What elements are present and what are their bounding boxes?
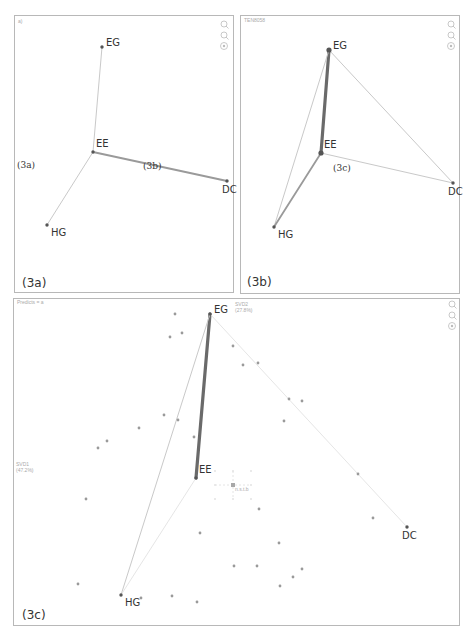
edge-ee-eg bbox=[93, 47, 102, 152]
scatter-point bbox=[177, 419, 180, 422]
grid-dot bbox=[214, 498, 216, 500]
scatter-point bbox=[258, 508, 261, 511]
zoom-out-icon[interactable] bbox=[448, 32, 456, 40]
grid-dot bbox=[250, 498, 252, 500]
node-label-dc: DC bbox=[222, 184, 237, 195]
zoom-in-icon[interactable] bbox=[448, 21, 456, 29]
panel-corner-text: TEN8058 bbox=[244, 17, 265, 23]
reset-view-icon[interactable] bbox=[448, 43, 455, 50]
scatter-point bbox=[169, 336, 172, 339]
scatter-point bbox=[292, 576, 295, 579]
edge-ee-hg bbox=[274, 153, 321, 227]
scatter-point bbox=[278, 542, 281, 545]
annotation: (3c) bbox=[333, 163, 351, 173]
scatter-point bbox=[233, 565, 236, 568]
scatter-point bbox=[283, 420, 286, 423]
node-dc[interactable] bbox=[451, 181, 454, 184]
node-label-ee: EE bbox=[96, 138, 109, 149]
node-label-eg: EG bbox=[214, 304, 228, 315]
panel-corner-text: Predicts = a bbox=[17, 299, 44, 305]
grid-dot bbox=[250, 470, 252, 472]
scatter-point bbox=[85, 498, 88, 501]
grid-dot bbox=[214, 470, 216, 472]
zoom-in-icon[interactable] bbox=[449, 301, 457, 309]
scatter-point bbox=[199, 532, 202, 535]
scatter-point bbox=[97, 447, 100, 450]
scatter-point bbox=[232, 345, 235, 348]
scatter-point bbox=[301, 568, 304, 571]
node-ee[interactable] bbox=[91, 150, 94, 153]
node-label-eg: EG bbox=[106, 37, 120, 48]
node-eg[interactable] bbox=[100, 45, 103, 48]
zoom-out-icon[interactable] bbox=[449, 312, 457, 320]
scatter-point bbox=[301, 400, 304, 403]
scatter-point bbox=[242, 364, 245, 367]
scatter-point bbox=[174, 313, 177, 316]
node-hg[interactable] bbox=[45, 223, 48, 226]
y-axis-pct: (47.2%) bbox=[16, 467, 34, 473]
node-label-dc: DC bbox=[402, 530, 417, 541]
node-dc[interactable] bbox=[225, 179, 228, 182]
scatter-point bbox=[163, 414, 166, 417]
zoom-in-icon[interactable] bbox=[221, 21, 229, 29]
edge-eg-dc bbox=[210, 314, 407, 527]
scatter-point bbox=[372, 517, 375, 520]
node-ee[interactable] bbox=[318, 150, 323, 155]
scatter-point bbox=[256, 565, 259, 568]
annotation: (3a) bbox=[17, 160, 35, 170]
scatter-point bbox=[279, 585, 282, 588]
scatter-point bbox=[138, 427, 141, 430]
node-label-ee: EE bbox=[199, 464, 212, 475]
zoom-out-icon[interactable] bbox=[221, 32, 229, 40]
annotation: (3b) bbox=[143, 161, 162, 171]
node-label-dc: DC bbox=[448, 186, 463, 197]
panel-corner-text: a) bbox=[18, 18, 23, 24]
scatter-point bbox=[357, 473, 360, 476]
node-ee[interactable] bbox=[194, 476, 197, 479]
edge-ee-hg bbox=[47, 152, 93, 225]
node-hg[interactable] bbox=[119, 593, 122, 596]
scatter-point bbox=[77, 583, 80, 586]
cluster-label: n.s.t.b bbox=[235, 486, 249, 492]
node-label-eg: EG bbox=[333, 40, 347, 51]
panel-tag: (3c) bbox=[22, 608, 46, 622]
node-label-hg: HG bbox=[125, 597, 140, 608]
scatter-point bbox=[181, 332, 184, 335]
reset-view-icon[interactable] bbox=[221, 43, 228, 50]
scatter-point bbox=[257, 362, 260, 365]
network-figure: EGEEDCHG(3a)(3b)(3a)a)EGEEDCHG(3c)(3b)TE… bbox=[0, 0, 471, 638]
scatter-point bbox=[106, 440, 109, 443]
scatter-point bbox=[288, 398, 291, 401]
reset-view-icon[interactable] bbox=[449, 323, 456, 330]
edge-ee-hg bbox=[121, 478, 196, 595]
node-dc[interactable] bbox=[405, 525, 408, 528]
scatter-point bbox=[196, 601, 199, 604]
scatter-point bbox=[193, 436, 196, 439]
node-label-ee: EE bbox=[324, 139, 337, 150]
node-label-hg: HG bbox=[278, 229, 293, 240]
node-eg[interactable] bbox=[326, 47, 331, 52]
edge-ee-eg bbox=[321, 50, 329, 153]
scatter-point bbox=[171, 595, 174, 598]
panel-tag: (3a) bbox=[22, 276, 46, 290]
node-hg[interactable] bbox=[272, 225, 275, 228]
node-label-hg: HG bbox=[51, 227, 66, 238]
x-axis-pct: (27.8%) bbox=[235, 307, 253, 313]
panel-tag: (3b) bbox=[247, 275, 272, 289]
node-eg[interactable] bbox=[208, 312, 211, 315]
edge-ee-eg bbox=[196, 314, 210, 478]
